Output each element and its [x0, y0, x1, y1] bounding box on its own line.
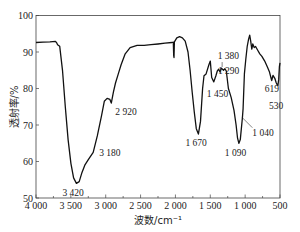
peak-annotations: 3 4203 1802 9201 6701 4501 3801 2901 090…: [62, 51, 283, 198]
x-axis-title: 波数/cm⁻¹: [134, 214, 182, 226]
y-tick-label: 80: [23, 83, 33, 94]
peak-label: 1 380: [218, 51, 240, 61]
y-tick-label: 90: [23, 47, 33, 58]
peak-label: 1 040: [252, 128, 274, 138]
x-tick-label: 1 000: [234, 200, 257, 211]
leader-line: [242, 118, 252, 128]
x-tick-label: 4 000: [25, 200, 48, 211]
peak-label: 3 180: [99, 148, 121, 158]
peak-label: 1 290: [218, 66, 240, 76]
peak-label: 1 450: [207, 89, 229, 99]
y-tick-label: 70: [23, 120, 33, 131]
peak-label: 619: [265, 84, 280, 94]
y-tick-label: 60: [23, 156, 33, 167]
peak-label: 1 090: [225, 148, 247, 158]
x-tick-label: 3 000: [94, 200, 117, 211]
y-tick-label: 100: [18, 10, 33, 21]
x-tick-label: 3 500: [60, 200, 83, 211]
y-axis-title: 透射率/%: [8, 86, 20, 129]
peak-label: 3 420: [62, 188, 84, 198]
x-tick-label: 2 500: [129, 200, 152, 211]
x-tick-label: 2 000: [164, 200, 187, 211]
spectrum-line: [36, 35, 280, 183]
peak-label: 2 920: [115, 107, 137, 117]
x-tick-label: 500: [273, 200, 288, 211]
x-tick-label: 1 500: [199, 200, 222, 211]
ir-spectrum-chart: 5060708090100 4 0003 5003 0002 5002 0001…: [0, 0, 300, 232]
peak-label: 1 670: [185, 138, 207, 148]
peak-label: 530: [269, 101, 284, 111]
